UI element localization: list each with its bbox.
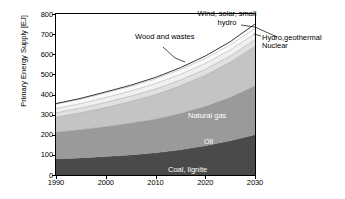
x-tick-label-2030: 2030	[235, 179, 275, 187]
x-tick-label-2010: 2010	[136, 179, 176, 187]
chart-figure: Primary Energy Supply [EJ] 800 700 600 5…	[0, 0, 345, 199]
axis-right-spine	[255, 13, 256, 176]
y-tick-label-100: 100	[27, 151, 53, 159]
band-label-oil: Oil	[204, 138, 213, 146]
callout-wind-line1: Wind, solar, small	[198, 9, 257, 18]
callout-wood-and-wastes: Wood and wastes	[135, 32, 194, 41]
y-tick-label-600: 600	[27, 51, 53, 59]
x-tick-label-1990: 1990	[36, 179, 76, 187]
x-tick-label-2000: 2000	[86, 179, 126, 187]
band-label-coal-lignite: Coal, lignite	[168, 166, 207, 174]
x-tick-label-2020: 2020	[185, 179, 225, 187]
y-tick-label-200: 200	[27, 131, 53, 139]
y-tick-label-300: 300	[27, 111, 53, 119]
y-tick-label-800: 800	[27, 11, 53, 19]
callout-wind-solar-small-hydro: Wind, solar, small hydro	[186, 9, 268, 27]
y-axis-label: Primary Energy Supply [EJ]	[20, 1, 28, 121]
y-tick-label-700: 700	[27, 31, 53, 39]
callout-wind-line2: hydro	[186, 18, 268, 27]
callout-nuclear: Nuclear	[262, 41, 288, 50]
band-label-natural-gas: Natural gas	[188, 112, 226, 120]
y-tick-label-400: 400	[27, 91, 53, 99]
y-tick-label-500: 500	[27, 71, 53, 79]
